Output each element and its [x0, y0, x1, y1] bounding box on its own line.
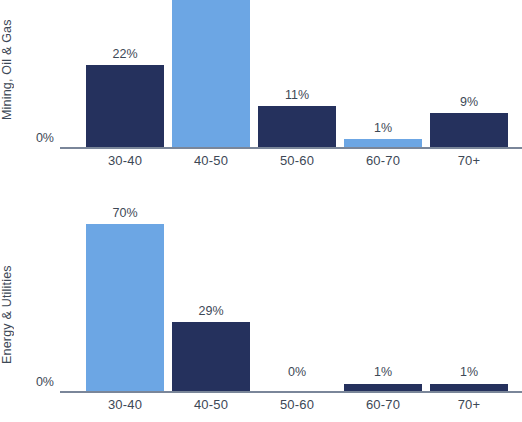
plot-area-energy: 0% 70% 29% 0% 1% — [60, 180, 522, 422]
y-axis-zero-label-energy: 0% — [20, 375, 54, 389]
bar-slot-mining-60-70: 1% — [344, 0, 422, 147]
x-tick-mining-60-70: 60-70 — [344, 153, 422, 168]
chart-energy-utilities: Energy & Utilities 0% 70% 29% 0% 1% — [0, 180, 522, 422]
bar-value-label-mining-70plus: 9% — [430, 95, 508, 109]
bar-value-label-mining-50-60: 11% — [258, 88, 336, 102]
bar-value-label-mining-60-70: 1% — [344, 121, 422, 135]
bar-value-label-energy-50-60: 0% — [258, 365, 336, 379]
bar-mining-30-40[interactable] — [86, 65, 164, 147]
x-tick-mining-40-50: 40-50 — [172, 153, 250, 168]
bar-value-label-energy-60-70: 1% — [344, 365, 422, 379]
x-tick-mining-50-60: 50-60 — [258, 153, 336, 168]
bar-energy-70plus[interactable] — [430, 384, 508, 391]
x-axis-line-mining — [60, 147, 522, 149]
bar-slot-mining-40-50 — [172, 0, 250, 147]
bar-slot-energy-50-60: 0% — [258, 180, 336, 391]
y-axis-title-energy: Energy & Utilities — [0, 240, 20, 390]
bar-energy-40-50[interactable] — [172, 322, 250, 391]
bar-group-mining: 22% 11% 1% 9% — [60, 0, 522, 147]
x-tick-energy-60-70: 60-70 — [344, 397, 422, 412]
bar-value-label-energy-70plus: 1% — [430, 365, 508, 379]
bar-mining-40-50[interactable] — [172, 0, 250, 147]
bar-slot-energy-60-70: 1% — [344, 180, 422, 391]
bar-mining-70plus[interactable] — [430, 113, 508, 147]
x-tick-energy-70plus: 70+ — [430, 397, 508, 412]
bar-slot-mining-30-40: 22% — [86, 0, 164, 147]
x-tick-energy-40-50: 40-50 — [172, 397, 250, 412]
x-tick-mining-70plus: 70+ — [430, 153, 508, 168]
bar-slot-energy-70plus: 1% — [430, 180, 508, 391]
bar-energy-30-40[interactable] — [86, 224, 164, 391]
x-tick-energy-30-40: 30-40 — [86, 397, 164, 412]
bar-slot-energy-40-50: 29% — [172, 180, 250, 391]
x-tick-mining-30-40: 30-40 — [86, 153, 164, 168]
plot-area-mining: 0% 22% 11% 1% — [60, 0, 522, 150]
bar-slot-energy-30-40: 70% — [86, 180, 164, 391]
y-axis-title-mining: Mining, Oil & Gas — [0, 0, 20, 140]
bar-value-label-energy-40-50: 29% — [172, 304, 250, 318]
bar-slot-mining-50-60: 11% — [258, 0, 336, 147]
bar-mining-50-60[interactable] — [258, 106, 336, 147]
x-tick-energy-50-60: 50-60 — [258, 397, 336, 412]
bar-mining-60-70[interactable] — [344, 139, 422, 147]
bar-slot-mining-70plus: 9% — [430, 0, 508, 147]
y-axis-zero-label-mining: 0% — [20, 131, 54, 145]
bar-energy-60-70[interactable] — [344, 384, 422, 391]
bar-group-energy: 70% 29% 0% 1% 1% — [60, 180, 522, 391]
x-axis-line-energy — [60, 391, 522, 393]
bar-value-label-mining-30-40: 22% — [86, 47, 164, 61]
chart-mining-oil-gas: Mining, Oil & Gas 0% 22% 11% — [0, 0, 522, 180]
bar-value-label-energy-30-40: 70% — [86, 206, 164, 220]
